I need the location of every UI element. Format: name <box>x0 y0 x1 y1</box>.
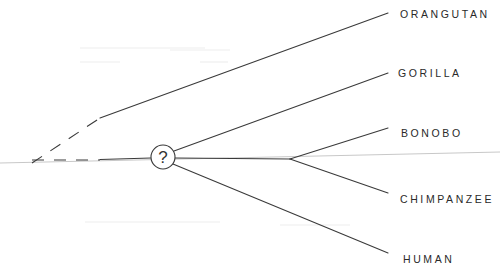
taxon-label-orangutan: ORANGUTAN <box>400 8 490 20</box>
taxon-label-bonobo: BONOBO <box>401 127 463 139</box>
orangutan-branch <box>100 13 388 118</box>
chimpanzee-branch <box>290 159 388 193</box>
phylogenetic-tree-diagram: ? ORANGUTAN GORILLA BONOBO CHIMPANZEE HU… <box>0 0 500 278</box>
taxon-label-chimpanzee: CHIMPANZEE <box>400 193 494 205</box>
taxon-label-gorilla: GORILLA <box>398 67 462 79</box>
gorilla-branch <box>174 73 388 151</box>
human-branch <box>173 164 388 253</box>
unknown-ancestor-node: ? <box>151 145 175 169</box>
taxon-label-human: HUMAN <box>403 253 455 265</box>
orangutan-branch-uncertain <box>32 118 100 163</box>
question-mark-icon: ? <box>158 148 167 167</box>
ancestor-stem <box>100 158 151 160</box>
horizontal-guide-line <box>0 152 500 163</box>
